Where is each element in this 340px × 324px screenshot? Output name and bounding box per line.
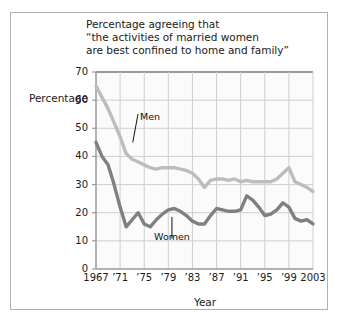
y-tick-label: 70 [64,66,88,77]
plot-background [96,72,313,269]
x-tick-label: ’91 [233,272,249,283]
x-tick-label: ’95 [257,272,273,283]
y-tick-label: 60 [64,94,88,105]
x-tick-label: 2003 [300,272,325,283]
x-tick-label: ’83 [184,272,200,283]
x-tick-label: ’99 [281,272,297,283]
y-tick-label: 10 [64,235,88,246]
series-annotation-women: Women [154,231,190,242]
x-tick-label: ’79 [160,272,176,283]
x-tick-label: ’87 [209,272,225,283]
y-tick-label: 30 [64,179,88,190]
y-tick-label: 50 [64,122,88,133]
y-tick-label: 20 [64,207,88,218]
plot-area: 0102030405060701967’71’75’79’83’87’91’95… [0,0,340,324]
x-tick-label: ’71 [112,272,128,283]
y-tick-label: 40 [64,150,88,161]
x-tick-label: ’75 [136,272,152,283]
series-annotation-men: Men [140,111,160,122]
x-tick-label: 1967 [83,272,108,283]
